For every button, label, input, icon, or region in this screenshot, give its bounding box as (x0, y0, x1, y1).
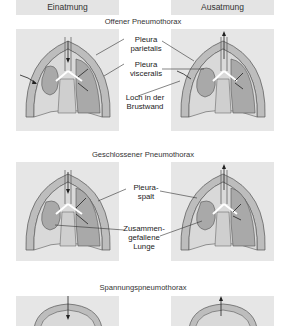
thorax-illustration (16, 29, 119, 131)
thorax-illustration (16, 162, 119, 261)
thorax-illustration (171, 296, 274, 326)
panel-geschlossener-einatmung (16, 162, 119, 261)
section-title-offener-pneumothorax: Offener Pneumothorax (0, 17, 286, 26)
header-einatmung: Einatmung (16, 0, 119, 15)
label-loch-in-der-brustwand: Loch in der Brustwand (120, 93, 170, 111)
section-title-geschlossener-pneumothorax: Geschlossener Pneumothorax (0, 150, 286, 159)
panel-spannung-ausatmung (171, 296, 274, 326)
panel-geschlossener-ausatmung (171, 162, 274, 261)
label-pleura-visceralis: Pleura visceralis (124, 60, 168, 78)
label-pleuraspalt: Pleura- spalt (126, 183, 166, 201)
panel-offener-ausatmung (171, 29, 274, 131)
header-ausatmung: Ausatmung (171, 0, 274, 15)
thorax-illustration (171, 29, 274, 131)
section-title-spannungspneumothorax: Spannungspneumothorax (0, 283, 286, 292)
panel-offener-einatmung (16, 29, 119, 131)
thorax-illustration (171, 162, 274, 261)
panel-spannung-einatmung (16, 296, 119, 326)
thorax-illustration (16, 296, 119, 326)
label-zusammengefallene-lunge: Zusammen- gefallene Lunge (120, 224, 168, 251)
label-pleura-parietalis: Pleura parietalis (124, 35, 168, 53)
